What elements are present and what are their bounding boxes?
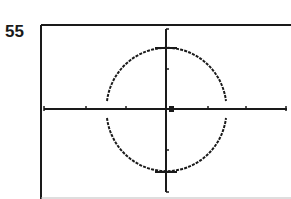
y-axis: [166, 29, 169, 192]
calculator-graph-screen: [0, 0, 291, 199]
graph-plot: [0, 0, 291, 199]
trace-cursor: [169, 106, 174, 112]
